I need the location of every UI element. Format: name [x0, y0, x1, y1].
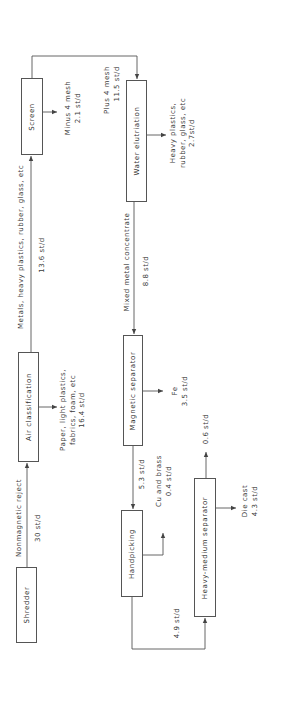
- flow-lines: [0, 0, 302, 709]
- node-heavy-medium-separator: Heavy-medium separator: [194, 478, 216, 617]
- node-magnetic-separator: Magnetic separator: [123, 335, 143, 446]
- node-label: Handpicking: [128, 528, 136, 578]
- node-air-classification: Air classification: [18, 352, 39, 462]
- node-label: Air classification: [25, 373, 33, 441]
- node-handpicking: Handpicking: [121, 510, 143, 597]
- node-label: Shredder: [23, 587, 31, 624]
- node-label: Magnetic separator: [129, 351, 137, 430]
- node-label: Heavy-medium separator: [201, 496, 209, 599]
- node-shredder: Shredder: [16, 567, 37, 643]
- node-label: Water elutriation: [133, 106, 141, 175]
- node-label: Screen: [28, 103, 36, 131]
- node-screen: Screen: [21, 78, 43, 155]
- arrow-handpicking-to-cu-brass: [143, 533, 163, 555]
- node-water-elutriation: Water elutriation: [126, 80, 147, 202]
